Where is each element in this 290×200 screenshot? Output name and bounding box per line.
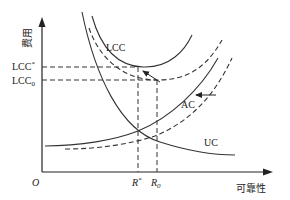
guide-lines: [42, 67, 157, 172]
lcc-zero-label: LCC0: [12, 75, 35, 88]
x-axis-label: 可靠性: [236, 182, 266, 194]
lcc-shifted-curve: [89, 28, 222, 80]
y-axis-arrow-icon: [39, 17, 46, 27]
r-zero-label: R0: [150, 177, 161, 190]
ac-shifted-curve: [65, 58, 232, 149]
uc-label: UC: [204, 137, 218, 148]
r-star-label: R*: [131, 176, 142, 188]
x-axis-arrow-icon: [263, 169, 273, 176]
origin-label: O: [32, 177, 39, 188]
cost-reliability-diagram: 费用 可靠性 O LCC* LCC0 R* R0 UC AC LCC: [0, 0, 290, 200]
lcc-label: LCC: [106, 42, 126, 53]
lcc-star-label: LCC*: [12, 60, 35, 72]
uc-curve: [82, 12, 235, 155]
y-axis: [39, 17, 46, 172]
ac-label: AC: [181, 99, 195, 110]
y-axis-label: 费用: [21, 28, 33, 48]
lcc-shift-arrow-icon: [143, 71, 160, 82]
